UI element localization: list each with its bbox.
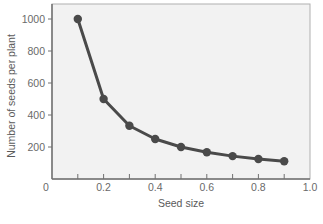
x-tick-label: 0.8 [251, 181, 266, 193]
x-tick-label: 0.2 [96, 181, 111, 193]
data-point [228, 152, 236, 160]
y-tick-label: 1000 [22, 13, 46, 25]
x-tick-label: 1.0 [303, 181, 318, 193]
data-point [151, 135, 159, 143]
y-tick-label: 400 [27, 109, 45, 121]
data-point [203, 148, 211, 156]
y-axis-ticks: 2004006008001000 [22, 13, 52, 153]
data-point [280, 157, 288, 165]
data-point [254, 155, 262, 163]
data-point [74, 15, 82, 23]
data-point [177, 143, 185, 151]
y-tick-label: 600 [27, 77, 45, 89]
y-tick-label: 800 [27, 45, 45, 57]
x-axis-title: Seed size [158, 197, 204, 209]
x-tick-label: 0.6 [199, 181, 214, 193]
y-tick-label: 200 [27, 141, 45, 153]
y-axis-title: Number of seeds per plant [5, 34, 17, 158]
x-tick-label: 0.4 [148, 181, 163, 193]
chart: 2004006008001000 00.20.40.60.81.0 Seed s… [0, 0, 323, 224]
x-tick-label: 0 [43, 181, 49, 193]
data-point [99, 95, 107, 103]
plot-area [52, 4, 310, 179]
data-point [125, 122, 133, 130]
